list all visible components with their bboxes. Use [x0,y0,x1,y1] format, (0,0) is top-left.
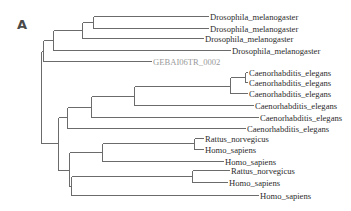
leaf-label: Caenorhabditis_elegans [260,113,343,123]
leaf-label: Homo_sapiens [260,191,312,201]
leaf-label: Homo_sapiens [229,178,281,188]
leaf-label: Drosophila_melanogaster [205,34,293,44]
leaf-label: Caenorhabditis_elegans [255,101,338,111]
leaf-label: Rattus_norvegicus [231,166,296,176]
leaf-label: Caenorhabditis_elegans [249,78,332,88]
leaf-label: Rattus_norvegicus [205,134,270,144]
leaf-label: GEBAI06TR_0002 [153,57,220,67]
leaf-label: Drosophila_melanogaster [232,46,320,56]
leaf-label: Caenorhabditis_elegans [247,124,330,134]
leaf-label: Drosophila_melanogaster [210,24,298,34]
leaf-label: Caenorhabditis_elegans [249,89,332,99]
phylogenetic-tree: Drosophila_melanogasterDrosophila_melano… [0,0,351,211]
leaf-label: Caenorhabditis_elegans [249,68,332,78]
leaf-label: Homo_sapiens [205,145,257,155]
leaf-label: Drosophila_melanogaster [210,12,298,22]
